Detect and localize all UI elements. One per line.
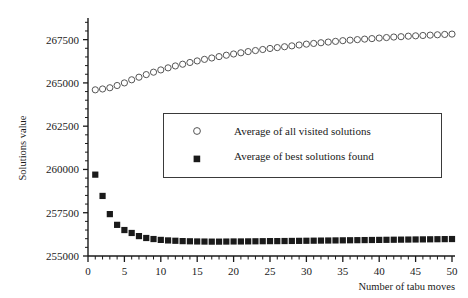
data-point-filled-square: [427, 236, 433, 242]
data-point-open-circle: [121, 80, 127, 86]
data-point-filled-square: [121, 227, 127, 233]
series-average-best-found: [92, 172, 455, 245]
data-point-filled-square: [165, 237, 171, 243]
data-point-filled-square: [347, 237, 353, 243]
data-point-open-circle: [92, 87, 98, 93]
data-point-filled-square: [289, 238, 295, 244]
data-point-filled-square: [238, 238, 244, 244]
data-point-open-circle: [427, 32, 433, 38]
data-point-open-circle: [369, 35, 375, 41]
data-point-filled-square: [201, 238, 207, 244]
data-point-filled-square: [129, 230, 135, 236]
y-tick-label: 265000: [46, 77, 80, 89]
series-average-all-visited: [92, 31, 455, 93]
data-point-open-circle: [413, 33, 419, 39]
data-point-filled-square: [369, 237, 375, 243]
data-point-open-circle: [143, 72, 149, 78]
data-point-open-circle: [99, 86, 105, 92]
data-point-open-circle: [216, 53, 222, 59]
data-point-open-circle: [136, 74, 142, 80]
x-tick-label: 40: [374, 265, 386, 277]
data-point-filled-square: [442, 236, 448, 242]
y-axis-title: Solutions value: [17, 115, 28, 180]
x-tick-label: 5: [122, 265, 128, 277]
x-tick-label: 45: [410, 265, 422, 277]
data-point-open-circle: [340, 38, 346, 44]
legend: Average of all visited solutions Average…: [164, 114, 442, 178]
data-point-open-circle: [201, 56, 207, 62]
data-point-open-circle: [252, 47, 258, 53]
data-point-filled-square: [107, 211, 113, 217]
data-point-open-circle: [150, 69, 156, 75]
data-point-filled-square: [413, 236, 419, 242]
data-point-open-circle: [303, 41, 309, 47]
data-point-filled-square: [296, 238, 302, 244]
data-point-open-circle: [347, 37, 353, 43]
data-point-filled-square: [398, 237, 404, 243]
data-point-filled-square: [362, 237, 368, 243]
x-tick-label: 25: [265, 265, 277, 277]
data-point-filled-square: [180, 238, 186, 244]
data-point-open-circle: [274, 44, 280, 50]
data-point-filled-square: [216, 239, 222, 245]
data-point-open-circle: [362, 36, 368, 42]
data-point-filled-square: [150, 236, 156, 242]
data-point-open-circle: [311, 40, 317, 46]
legend-label-best-found: Average of best solutions found: [234, 150, 374, 162]
data-point-open-circle: [165, 65, 171, 71]
data-point-filled-square: [209, 239, 215, 245]
data-point-open-circle: [231, 51, 237, 57]
data-point-filled-square: [376, 237, 382, 243]
data-point-open-circle: [209, 55, 215, 61]
data-point-filled-square: [332, 237, 338, 243]
data-point-open-circle: [267, 45, 273, 51]
data-point-filled-square: [405, 236, 411, 242]
data-point-filled-square: [114, 222, 120, 228]
x-axis-group: 05101520253035404550 Number of tabu move…: [85, 256, 458, 292]
data-point-open-circle: [114, 82, 120, 88]
chart-container: 255000257500260000262500265000267500 Sol…: [0, 0, 468, 298]
data-point-open-circle: [405, 33, 411, 39]
legend-label-all-visited: Average of all visited solutions: [234, 125, 371, 137]
data-point-open-circle: [383, 34, 389, 40]
data-point-filled-square: [311, 238, 317, 244]
data-point-open-circle: [180, 61, 186, 67]
data-point-open-circle: [325, 39, 331, 45]
y-tick-label: 255000: [46, 250, 80, 262]
data-point-filled-square: [223, 238, 229, 244]
data-point-open-circle: [129, 77, 135, 83]
legend-marker-filled-square: [194, 156, 201, 163]
legend-frame: [164, 114, 442, 178]
data-point-filled-square: [260, 238, 266, 244]
data-point-filled-square: [136, 233, 142, 239]
x-tick-label: 20: [228, 265, 240, 277]
x-tick-label: 30: [301, 265, 313, 277]
x-axis-tick-labels: 05101520253035404550: [85, 265, 458, 277]
x-tick-label: 15: [192, 265, 204, 277]
y-tick-label: 257500: [46, 207, 80, 219]
data-point-filled-square: [354, 237, 360, 243]
data-point-filled-square: [281, 238, 287, 244]
data-point-open-circle: [449, 31, 455, 37]
data-point-open-circle: [434, 32, 440, 38]
data-point-open-circle: [398, 34, 404, 40]
data-point-filled-square: [383, 237, 389, 243]
data-point-open-circle: [354, 37, 360, 43]
data-point-open-circle: [289, 43, 295, 49]
data-point-filled-square: [325, 237, 331, 243]
data-point-filled-square: [158, 237, 164, 243]
data-point-filled-square: [143, 235, 149, 241]
x-tick-label: 35: [337, 265, 349, 277]
data-point-filled-square: [99, 193, 105, 199]
data-point-filled-square: [318, 237, 324, 243]
data-point-open-circle: [420, 32, 426, 38]
x-axis-major-ticks: [88, 256, 452, 262]
data-point-filled-square: [267, 238, 273, 244]
data-point-filled-square: [340, 237, 346, 243]
data-point-open-circle: [281, 44, 287, 50]
data-point-open-circle: [391, 34, 397, 40]
y-tick-label: 267500: [46, 34, 80, 46]
data-point-filled-square: [420, 236, 426, 242]
data-point-open-circle: [245, 48, 251, 54]
data-point-open-circle: [187, 59, 193, 65]
